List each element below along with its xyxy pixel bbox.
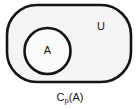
subset-a-label: A — [44, 44, 52, 56]
caption-argument: (A) — [69, 91, 84, 103]
venn-diagram-canvas: U A Cp(A) — [0, 0, 140, 109]
complement-caption: Cp(A) — [57, 91, 84, 105]
caption-base: C — [57, 91, 65, 103]
universal-set-label: U — [97, 20, 105, 32]
set-complement-diagram: U A Cp(A) — [0, 0, 140, 109]
